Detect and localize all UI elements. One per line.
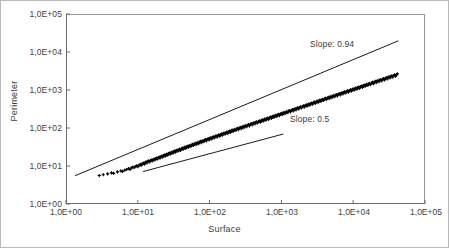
data-markers <box>98 72 399 177</box>
fit-lines <box>75 41 398 176</box>
annotation-slope-094: Slope: 0.94 <box>310 39 354 49</box>
chart-canvas <box>0 0 449 248</box>
annotation-slope-05: Slope: 0.5 <box>290 114 329 124</box>
chart-container: 1,0E+05 1,0E+04 1,0E+03 1,0E+02 1,0E+01 … <box>0 0 449 248</box>
tick-marks <box>66 14 425 204</box>
